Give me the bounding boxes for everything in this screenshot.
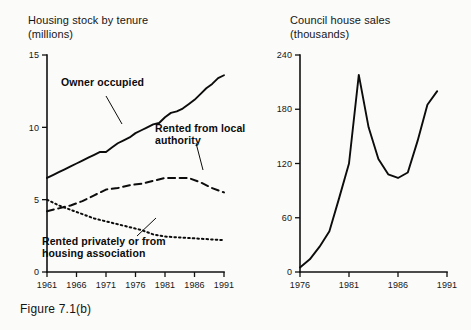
chart-panel-housing-stock: Housing stock by tenure(millions) 051015… <box>0 0 248 300</box>
y-tick-label: 180 <box>277 104 292 114</box>
chart-panel-council-house-sales: Council house sales(thousands) 060120180… <box>248 0 471 300</box>
y-tick-label: 10 <box>29 123 39 133</box>
axes-group-right <box>300 55 447 272</box>
y-tick-label: 60 <box>282 213 292 223</box>
x-tick-group: 1976198119861991 <box>290 272 457 290</box>
x-tick-label: 1986 <box>388 280 408 290</box>
chart-housing-stock-svg: 051015 1961196619711976198119861991 Owne… <box>0 0 248 300</box>
leader-line-rented-local-authority <box>196 143 203 170</box>
annotation-rented-privately-line1: Rented privately or from <box>42 235 166 247</box>
chart-council-house-sales-svg: 060120180240 1976198119861991 <box>248 0 471 300</box>
x-tick-group: 1961196619711976198119861991 <box>37 272 234 290</box>
x-tick-label: 1961 <box>37 280 57 290</box>
annotation-owner-occupied: Owner occupied <box>61 76 144 88</box>
annotation-rented-local-authority-line2: authority <box>155 134 201 146</box>
y-tick-label: 120 <box>277 159 292 169</box>
x-tick-label: 1981 <box>339 280 359 290</box>
leader-line-owner-occupied <box>106 96 122 124</box>
figure-container: Housing stock by tenure(millions) 051015… <box>0 0 471 330</box>
y-tick-label: 0 <box>287 267 292 277</box>
y-tick-label: 240 <box>277 50 292 60</box>
figure-caption: Figure 7.1(b) <box>20 302 91 316</box>
series-path <box>47 178 224 211</box>
series-path <box>300 75 437 268</box>
x-tick-label: 1971 <box>96 280 116 290</box>
y-tick-label: 15 <box>29 50 39 60</box>
y-tick-label: 5 <box>34 195 39 205</box>
x-tick-label: 1976 <box>125 280 145 290</box>
x-tick-label: 1991 <box>214 280 234 290</box>
x-tick-label: 1976 <box>290 280 310 290</box>
x-tick-label: 1991 <box>437 280 457 290</box>
series-group <box>300 75 437 268</box>
y-tick-label: 0 <box>34 267 39 277</box>
x-tick-label: 1981 <box>155 280 175 290</box>
series-group <box>47 75 224 240</box>
x-tick-label: 1966 <box>66 280 86 290</box>
x-tick-label: 1986 <box>184 280 204 290</box>
y-tick-group: 060120180240 <box>277 50 300 277</box>
leader-line-rented-privately <box>137 218 156 236</box>
annotation-rented-privately-line2: housing association <box>42 247 145 259</box>
annotation-rented-local-authority-line1: Rented from local <box>155 122 245 134</box>
